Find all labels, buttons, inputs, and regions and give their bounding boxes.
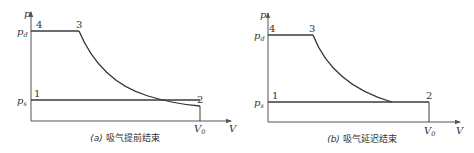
- point-2-label: 2: [197, 94, 203, 105]
- pv-diagrams: p pd ps 4 3 1 2 V0 V (a)吸气提前结束 p pd ps 4…: [0, 0, 474, 153]
- v-axis-label: V: [229, 123, 238, 134]
- pd-label: pd: [17, 26, 28, 39]
- v-axis-label: V: [456, 125, 465, 136]
- caption-b: (b)吸气延迟结束: [327, 133, 397, 144]
- diagram-a: p pd ps 4 3 1 2 V0 V (a)吸气提前结束: [17, 8, 238, 143]
- p-axis-label: p: [24, 8, 31, 19]
- caption-a: (a)吸气提前结束: [90, 132, 160, 143]
- point-4-label: 4: [36, 19, 42, 30]
- point-3-label: 3: [76, 19, 82, 30]
- diagram-b: p pd ps 4 3 1 2 V0 V (b)吸气延迟结束: [254, 9, 465, 144]
- pd-label: pd: [254, 30, 265, 43]
- compression-curve: [79, 31, 200, 106]
- point-1-label: 1: [34, 88, 40, 99]
- ps-label: ps: [17, 95, 27, 108]
- v0-label: V0: [424, 125, 435, 138]
- ps-label: ps: [254, 97, 264, 110]
- point-4-label: 4: [269, 23, 275, 34]
- compression-curve: [313, 35, 392, 102]
- p-axis-label: p: [260, 9, 267, 20]
- point-2-label: 2: [426, 90, 432, 101]
- point-1-label: 1: [272, 90, 278, 101]
- point-3-label: 3: [309, 23, 315, 34]
- v0-label: V0: [194, 123, 205, 136]
